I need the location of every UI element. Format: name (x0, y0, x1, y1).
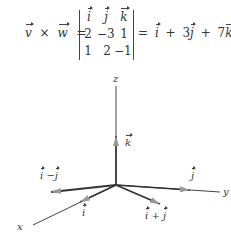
i-minus-j-vector-label: i −j (40, 171, 58, 181)
k-vector-label: k (125, 138, 131, 148)
i-minus-j-vector-arrow (51, 185, 116, 192)
i-vector-label: i (82, 208, 85, 218)
i-plus-j-vector-label: i + j (145, 211, 166, 221)
axes-diagram (0, 0, 231, 232)
j-vector-label: j (191, 171, 194, 181)
y-axis-label: y (223, 187, 229, 197)
z-axis-label: z (113, 74, 118, 84)
x-axis-label: x (17, 222, 23, 232)
